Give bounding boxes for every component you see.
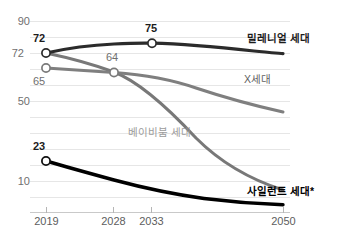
x-tick-label-2050: 2050	[266, 216, 301, 227]
marker-genx-2019	[42, 64, 50, 72]
x-tick-label-2033: 2033	[134, 216, 169, 227]
x-axis-ticks	[47, 207, 284, 213]
series-label-genx: X세대	[244, 74, 271, 85]
data-label-millennial-2033: 75	[145, 23, 157, 34]
y-tick-label-10: 10	[8, 176, 30, 187]
series-label-millennial: 밀레니얼 세대	[247, 33, 310, 44]
y-tick-label-50: 50	[8, 96, 30, 107]
series-label-silent: 사일런트 세대*	[247, 186, 314, 197]
series-label-boomer: 베이비붐 세대	[128, 127, 191, 138]
generation-line-chart: 90 72 50 10 2019 2028 2033 2050 72 75 64…	[0, 0, 337, 248]
y-tick-label-90: 90	[8, 16, 30, 27]
data-label-genx-2019: 65	[33, 76, 45, 87]
marker-silent-2019	[42, 157, 50, 165]
x-tick-label-2028: 2028	[96, 216, 131, 227]
y-tick-label-72: 72	[2, 48, 24, 59]
series-line-silent	[46, 161, 283, 205]
marker-millennial-2019	[42, 49, 50, 57]
marker-genx-2028	[110, 68, 118, 76]
data-point-markers	[42, 39, 156, 165]
marker-millennial-2033	[148, 39, 156, 47]
data-label-genx-2028: 64	[106, 52, 118, 63]
x-tick-label-2019: 2019	[29, 216, 64, 227]
series-line-millennial	[46, 43, 283, 53]
data-label-silent-2019: 23	[33, 141, 45, 152]
data-label-millennial-2019: 72	[33, 33, 45, 44]
